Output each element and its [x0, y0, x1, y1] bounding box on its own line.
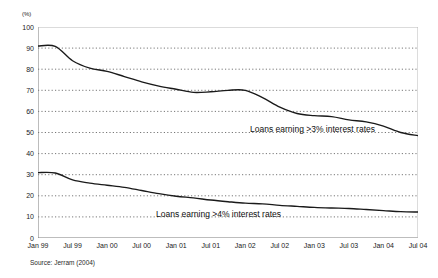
x-tick-label: Jul 01: [201, 242, 220, 250]
y-tick-label: 60: [10, 108, 34, 115]
x-tick-label: Jul 02: [270, 242, 289, 250]
x-tick-label: Jan 00: [97, 242, 118, 250]
x-tick-label: Jan 99: [27, 242, 48, 250]
y-tick-label: 100: [10, 24, 34, 31]
x-tick-label: Jul 04: [409, 242, 428, 250]
y-tick-label: 20: [10, 192, 34, 199]
y-axis-tick-labels: 0102030405060708090100: [10, 27, 34, 238]
x-tick-label: Jul 99: [63, 242, 82, 250]
y-tick-label: 40: [10, 150, 34, 157]
y-tick-label: 30: [10, 171, 34, 178]
series-label-4pct: Loans earning >4% interest rates: [156, 209, 281, 219]
y-tick-label: 50: [10, 129, 34, 136]
series-label-3pct: Loans earning >3% interest rates: [250, 124, 375, 134]
series-line-4pct: [38, 172, 418, 212]
y-axis-unit-label: (%): [22, 11, 31, 17]
plot-area: Loans earning >3% interest rates Loans e…: [38, 27, 418, 238]
x-tick-label: Jan 04: [373, 242, 394, 250]
chart-figure: (%) 0102030405060708090100 Loans earning…: [0, 0, 438, 278]
y-tick-label: 90: [10, 45, 34, 52]
y-tick-label: 70: [10, 87, 34, 94]
y-tick-label: 80: [10, 66, 34, 73]
x-tick-label: Jul 03: [340, 242, 359, 250]
y-tick-label: 0: [10, 235, 34, 242]
x-tick-label: Jan 03: [304, 242, 325, 250]
y-tick-label: 10: [10, 213, 34, 220]
source-note: Source: Jerram (2004): [30, 259, 95, 267]
x-tick-label: Jul 00: [132, 242, 151, 250]
x-axis-tick-labels: Jan 99Jul 99Jan 00Jul 00Jan 01Jul 01Jan …: [38, 242, 418, 256]
x-tick-label: Jan 01: [166, 242, 187, 250]
x-tick-label: Jan 02: [235, 242, 256, 250]
